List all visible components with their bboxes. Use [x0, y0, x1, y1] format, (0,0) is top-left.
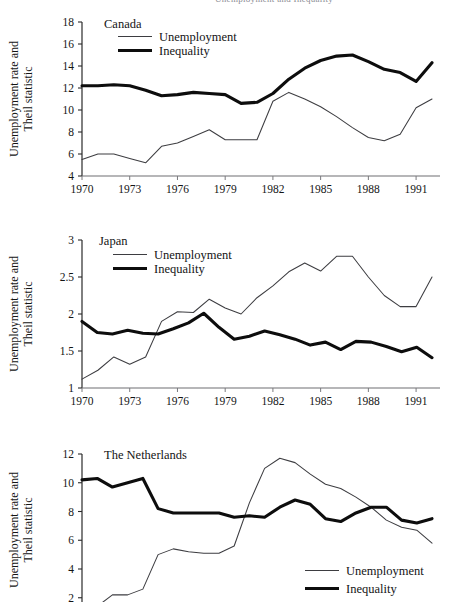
- y-tick-label: 12: [63, 82, 75, 94]
- x-tick-label: 1970: [71, 183, 94, 195]
- x-tick-label: 1979: [214, 183, 237, 195]
- canada-legend: Unemployment Inequality: [118, 30, 237, 58]
- canada-panel-title: Canada: [104, 17, 142, 31]
- cropped-header-text: Unemployment and Inequality: [215, 0, 445, 4]
- y-tick-label: 8: [68, 126, 74, 138]
- y-tick-label: 10: [63, 104, 75, 116]
- chart-panel-japan: 11.522.53 197019731976197919821985198819…: [0, 218, 450, 410]
- canada-svg: 4681012141618 19701973197619791982198519…: [0, 8, 450, 200]
- y-tick-label: 18: [63, 16, 75, 28]
- japan-y-axis-title: Unemployment rate and Theil statistic: [7, 256, 35, 372]
- y-tick-label: 10: [63, 477, 75, 489]
- japan-y-ticks: 11.522.53: [60, 234, 82, 394]
- japan-series-unemployment: [82, 256, 432, 379]
- y-tick-label: 6: [68, 148, 74, 160]
- japan-ylabel-line1: Unemployment rate and: [7, 256, 21, 372]
- y-tick-label: 1.5: [60, 345, 75, 357]
- x-tick-label: 1985: [309, 395, 332, 407]
- y-tick-label: 1: [68, 382, 74, 394]
- x-tick-label: 1976: [166, 183, 189, 195]
- netherlands-y-axis-title: Unemployment rate and Theil statistic: [7, 472, 35, 588]
- japan-legend: Unemployment Inequality: [113, 248, 232, 276]
- x-tick-label: 1982: [261, 183, 284, 195]
- y-tick-label: 3: [68, 234, 74, 246]
- netherlands-y-ticks: 24681012: [63, 448, 83, 602]
- x-tick-label: 1985: [309, 183, 332, 195]
- chart-panel-canada: 4681012141618 19701973197619791982198519…: [0, 8, 450, 200]
- netherlands-ylabel-line2: Theil statistic: [21, 498, 35, 563]
- x-tick-label: 1991: [405, 183, 428, 195]
- canada-y-axis-title: Unemployment rate and Theil statistic: [7, 41, 35, 157]
- netherlands-ylabel-line1: Unemployment rate and: [7, 472, 21, 588]
- netherlands-legend-label-inequality: Inequality: [346, 582, 397, 596]
- japan-series-inequality: [82, 313, 432, 357]
- japan-x-ticks: 19701973197619791982198519881991: [71, 388, 428, 407]
- y-tick-label: 8: [68, 506, 74, 518]
- y-tick-label: 6: [68, 534, 74, 546]
- unemployment-inequality-figure: Unemployment and Inequality 468101214161…: [0, 0, 450, 602]
- x-tick-label: 1982: [261, 395, 284, 407]
- y-tick-label: 2: [68, 308, 74, 320]
- chart-panel-netherlands: 24681012 The Netherlands Unemployment ra…: [0, 440, 450, 602]
- netherlands-svg: 24681012 The Netherlands Unemployment ra…: [0, 440, 450, 602]
- y-tick-label: 12: [63, 448, 75, 460]
- x-tick-label: 1991: [405, 395, 428, 407]
- canada-ylabel-line1: Unemployment rate and: [7, 41, 21, 157]
- japan-svg: 11.522.53 197019731976197919821985198819…: [0, 218, 450, 410]
- japan-legend-label-inequality: Inequality: [154, 262, 205, 276]
- canada-legend-label-unemployment: Unemployment: [159, 30, 237, 44]
- x-tick-label: 1988: [357, 183, 380, 195]
- netherlands-panel-title: The Netherlands: [104, 448, 187, 462]
- y-tick-label: 16: [63, 38, 75, 50]
- y-tick-label: 4: [68, 170, 74, 182]
- canada-series-inequality: [82, 55, 432, 103]
- canada-ylabel-line2: Theil statistic: [21, 67, 35, 132]
- x-tick-label: 1988: [357, 395, 380, 407]
- y-tick-label: 2.5: [60, 271, 75, 283]
- x-tick-label: 1973: [118, 183, 141, 195]
- japan-ylabel-line2: Theil statistic: [21, 282, 35, 347]
- x-tick-label: 1970: [71, 395, 94, 407]
- y-tick-label: 14: [63, 60, 75, 72]
- canada-y-ticks: 4681012141618: [63, 16, 83, 182]
- netherlands-legend-label-unemployment: Unemployment: [346, 564, 424, 578]
- x-tick-label: 1976: [166, 395, 189, 407]
- japan-panel-title: Japan: [99, 234, 128, 248]
- japan-axes: [82, 240, 440, 388]
- y-tick-label: 4: [68, 563, 74, 575]
- canada-x-ticks: 19701973197619791982198519881991: [71, 176, 428, 195]
- canada-legend-label-inequality: Inequality: [159, 44, 210, 58]
- netherlands-legend: Unemployment Inequality: [305, 564, 424, 596]
- y-tick-label: 2: [68, 592, 74, 602]
- japan-legend-label-unemployment: Unemployment: [154, 248, 232, 262]
- x-tick-label: 1979: [214, 395, 237, 407]
- x-tick-label: 1973: [118, 395, 141, 407]
